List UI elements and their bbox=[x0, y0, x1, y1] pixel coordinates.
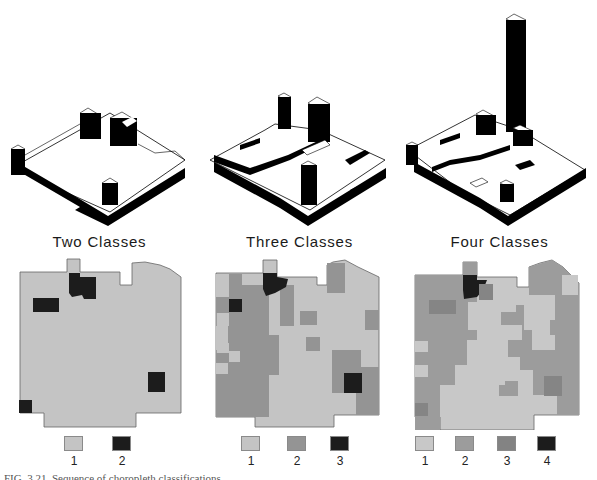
panel-title: Three Classes bbox=[200, 233, 399, 250]
legend-swatch-3 bbox=[330, 436, 349, 451]
prism-block-tall bbox=[506, 14, 526, 132]
legend-item: 2 bbox=[112, 436, 132, 468]
choropleth-map-three-classes bbox=[200, 255, 399, 430]
legend-four-classes: 1 2 3 4 bbox=[400, 436, 597, 466]
legend-label: 2 bbox=[455, 454, 475, 468]
class-2-region bbox=[280, 285, 294, 326]
prism-block bbox=[11, 145, 25, 175]
class-3-region bbox=[429, 300, 456, 314]
class-2-region bbox=[300, 311, 317, 325]
isometric-prism-map-two-classes bbox=[0, 0, 199, 230]
panel-two-classes: Two Classes 1 2 bbox=[0, 0, 199, 480]
panel-three-classes: Three Classes 1 2 3 bbox=[200, 0, 399, 480]
legend-label: 1 bbox=[241, 454, 261, 468]
prism-block bbox=[476, 110, 496, 135]
legend-item: 1 bbox=[241, 436, 261, 468]
class-2-region bbox=[365, 310, 379, 330]
class-3-region bbox=[415, 403, 428, 416]
prism-block bbox=[110, 112, 137, 146]
legend-item: 2 bbox=[287, 436, 307, 468]
legend-label: 4 bbox=[537, 454, 557, 468]
legend-item: 4 bbox=[537, 436, 557, 468]
panel-title: Two Classes bbox=[0, 233, 199, 250]
legend-item: 3 bbox=[497, 436, 517, 468]
prism-block bbox=[513, 125, 533, 146]
panel-title: Four Classes bbox=[400, 233, 597, 250]
legend-label: 1 bbox=[64, 454, 84, 468]
legend-item: 3 bbox=[330, 436, 350, 468]
class-3-region bbox=[229, 299, 242, 312]
class-3-region bbox=[479, 284, 493, 300]
class-2-region bbox=[148, 372, 165, 392]
class-2-region bbox=[306, 337, 320, 351]
legend-item: 1 bbox=[415, 436, 435, 468]
prism-block bbox=[406, 142, 418, 165]
isometric-prism-map-three-classes bbox=[200, 0, 399, 230]
prism-block bbox=[278, 93, 291, 129]
legend-label: 3 bbox=[330, 454, 350, 468]
legend-swatch-1 bbox=[64, 436, 83, 451]
figure-caption: FIG. 3.21. Sequence of choropleth classi… bbox=[4, 470, 221, 480]
legend-swatch-1 bbox=[415, 436, 434, 451]
legend-swatch-2 bbox=[287, 436, 306, 451]
prism-block bbox=[500, 180, 514, 202]
legend-label: 3 bbox=[497, 454, 517, 468]
legend-swatch-1 bbox=[241, 436, 260, 451]
legend-swatch-2 bbox=[455, 436, 474, 451]
legend-swatch-3 bbox=[497, 436, 516, 451]
prism-block bbox=[102, 178, 118, 205]
class-2-region bbox=[19, 400, 32, 413]
prism-block bbox=[80, 108, 101, 139]
legend-item: 1 bbox=[64, 436, 84, 468]
class-3-region bbox=[344, 373, 362, 393]
legend-label: 2 bbox=[287, 454, 307, 468]
prism-block bbox=[301, 161, 317, 205]
class-3-region bbox=[544, 376, 562, 396]
choropleth-map-four-classes bbox=[400, 255, 597, 430]
legend-item: 2 bbox=[455, 436, 475, 468]
legend-swatch-2 bbox=[112, 436, 131, 451]
legend-three-classes: 1 2 3 bbox=[200, 436, 399, 466]
legend-label: 2 bbox=[112, 454, 132, 468]
class-2-region bbox=[33, 298, 59, 312]
legend-swatch-4 bbox=[537, 436, 556, 451]
legend-two-classes: 1 2 bbox=[0, 436, 199, 466]
isometric-prism-map-four-classes bbox=[400, 0, 597, 230]
prism-block bbox=[308, 97, 330, 142]
panel-four-classes: Four Classes 1 2 3 4 bbox=[400, 0, 597, 480]
choropleth-map-two-classes bbox=[0, 255, 199, 430]
legend-label: 1 bbox=[415, 454, 435, 468]
class-2-region bbox=[327, 263, 345, 293]
